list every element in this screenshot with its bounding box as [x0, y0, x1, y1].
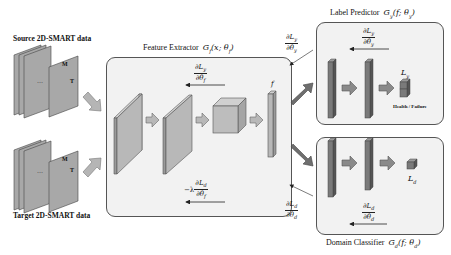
lp-arrow-1-icon	[342, 81, 357, 95]
dc-dense-2-icon	[365, 138, 373, 190]
target-data-label: Target 2D-SMART data	[13, 211, 90, 220]
feature-output-label: f	[271, 80, 274, 88]
target-arrow-icon	[83, 158, 101, 177]
to-label-predictor-arrow-icon	[291, 83, 313, 105]
domain-classifier-title: Domain Classifier Gd(f; θd)	[326, 238, 421, 249]
source-sheet-dots: ···	[37, 80, 43, 86]
source-data-stack-icon	[14, 45, 78, 118]
dc-arrow-2-icon	[380, 156, 395, 170]
source-data-label: Source 2D-SMART data	[13, 34, 91, 43]
lp-grad-label: ∂Ly ∂θy	[362, 27, 375, 49]
fe-arrow-1-icon	[146, 113, 159, 127]
target-sheet-m-label: M	[62, 156, 68, 162]
lower-connector-grad-label: ∂Ld ∂θd	[285, 200, 298, 222]
target-data-stack-icon	[14, 140, 78, 213]
dc-grad-label: ∂Ld ∂θd	[362, 202, 375, 224]
dc-dense-1-icon	[328, 138, 336, 197]
lp-loss-label: Ly	[401, 68, 409, 79]
feature-extractor-title: Feature Extractor Gf(x; θf)	[143, 43, 234, 54]
dc-arrow-1-icon	[342, 156, 357, 170]
lp-arrow-2-icon	[379, 81, 394, 95]
source-sheet-t-label: T	[70, 78, 74, 84]
lp-dense-1-icon	[328, 59, 336, 118]
label-predictor-title: Label Predictor Gy(f; θy)	[330, 8, 415, 19]
dc-loss-label: Ld	[408, 174, 417, 185]
feature-cube-icon	[213, 98, 246, 133]
lp-dense-2-icon	[365, 59, 373, 118]
conv-layer-2-icon	[163, 95, 192, 174]
source-sheet-m-label: M	[62, 61, 68, 67]
health-failure-caption: Health / Failure	[393, 104, 427, 109]
lp-output-icon	[400, 79, 410, 97]
fe-arrow-3-icon	[250, 113, 263, 127]
fe-arrow-2-icon	[196, 113, 209, 127]
feature-vector-icon	[268, 91, 276, 157]
upper-connector-grad-label: ∂Ly ∂θy	[285, 33, 298, 55]
to-domain-classifier-arrow-icon	[291, 144, 313, 166]
target-sheet-dots: ···	[37, 170, 43, 176]
conv-layer-1-icon	[114, 94, 142, 174]
fe-grad-bottom-label: −λ ∂Ld ∂θf	[184, 179, 208, 201]
dc-output-icon	[407, 159, 417, 169]
fe-grad-top-label: ∂Ly ∂θf	[194, 63, 207, 85]
target-sheet-t-label: T	[70, 167, 74, 173]
source-arrow-icon	[83, 92, 101, 111]
